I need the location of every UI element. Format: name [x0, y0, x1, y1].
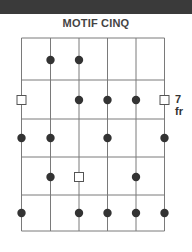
- note-dot: [17, 134, 25, 142]
- note-dot: [103, 134, 111, 142]
- note-dot: [132, 173, 140, 181]
- fretboard-diagram: [0, 0, 192, 252]
- note-dot: [132, 96, 140, 104]
- note-dot: [160, 209, 168, 217]
- fret-position-label: 7 fr: [175, 93, 192, 117]
- note-dot: [103, 209, 111, 217]
- note-dot: [75, 209, 83, 217]
- note-dot: [75, 56, 83, 64]
- note-dot: [160, 134, 168, 142]
- note-dot: [46, 134, 54, 142]
- root-note-box: [75, 173, 84, 182]
- root-note-box: [160, 96, 169, 105]
- note-dot: [46, 56, 54, 64]
- note-dot: [17, 209, 25, 217]
- note-dot: [75, 96, 83, 104]
- note-dot: [132, 209, 140, 217]
- note-dot: [46, 173, 54, 181]
- note-dot: [103, 96, 111, 104]
- root-note-box: [17, 96, 26, 105]
